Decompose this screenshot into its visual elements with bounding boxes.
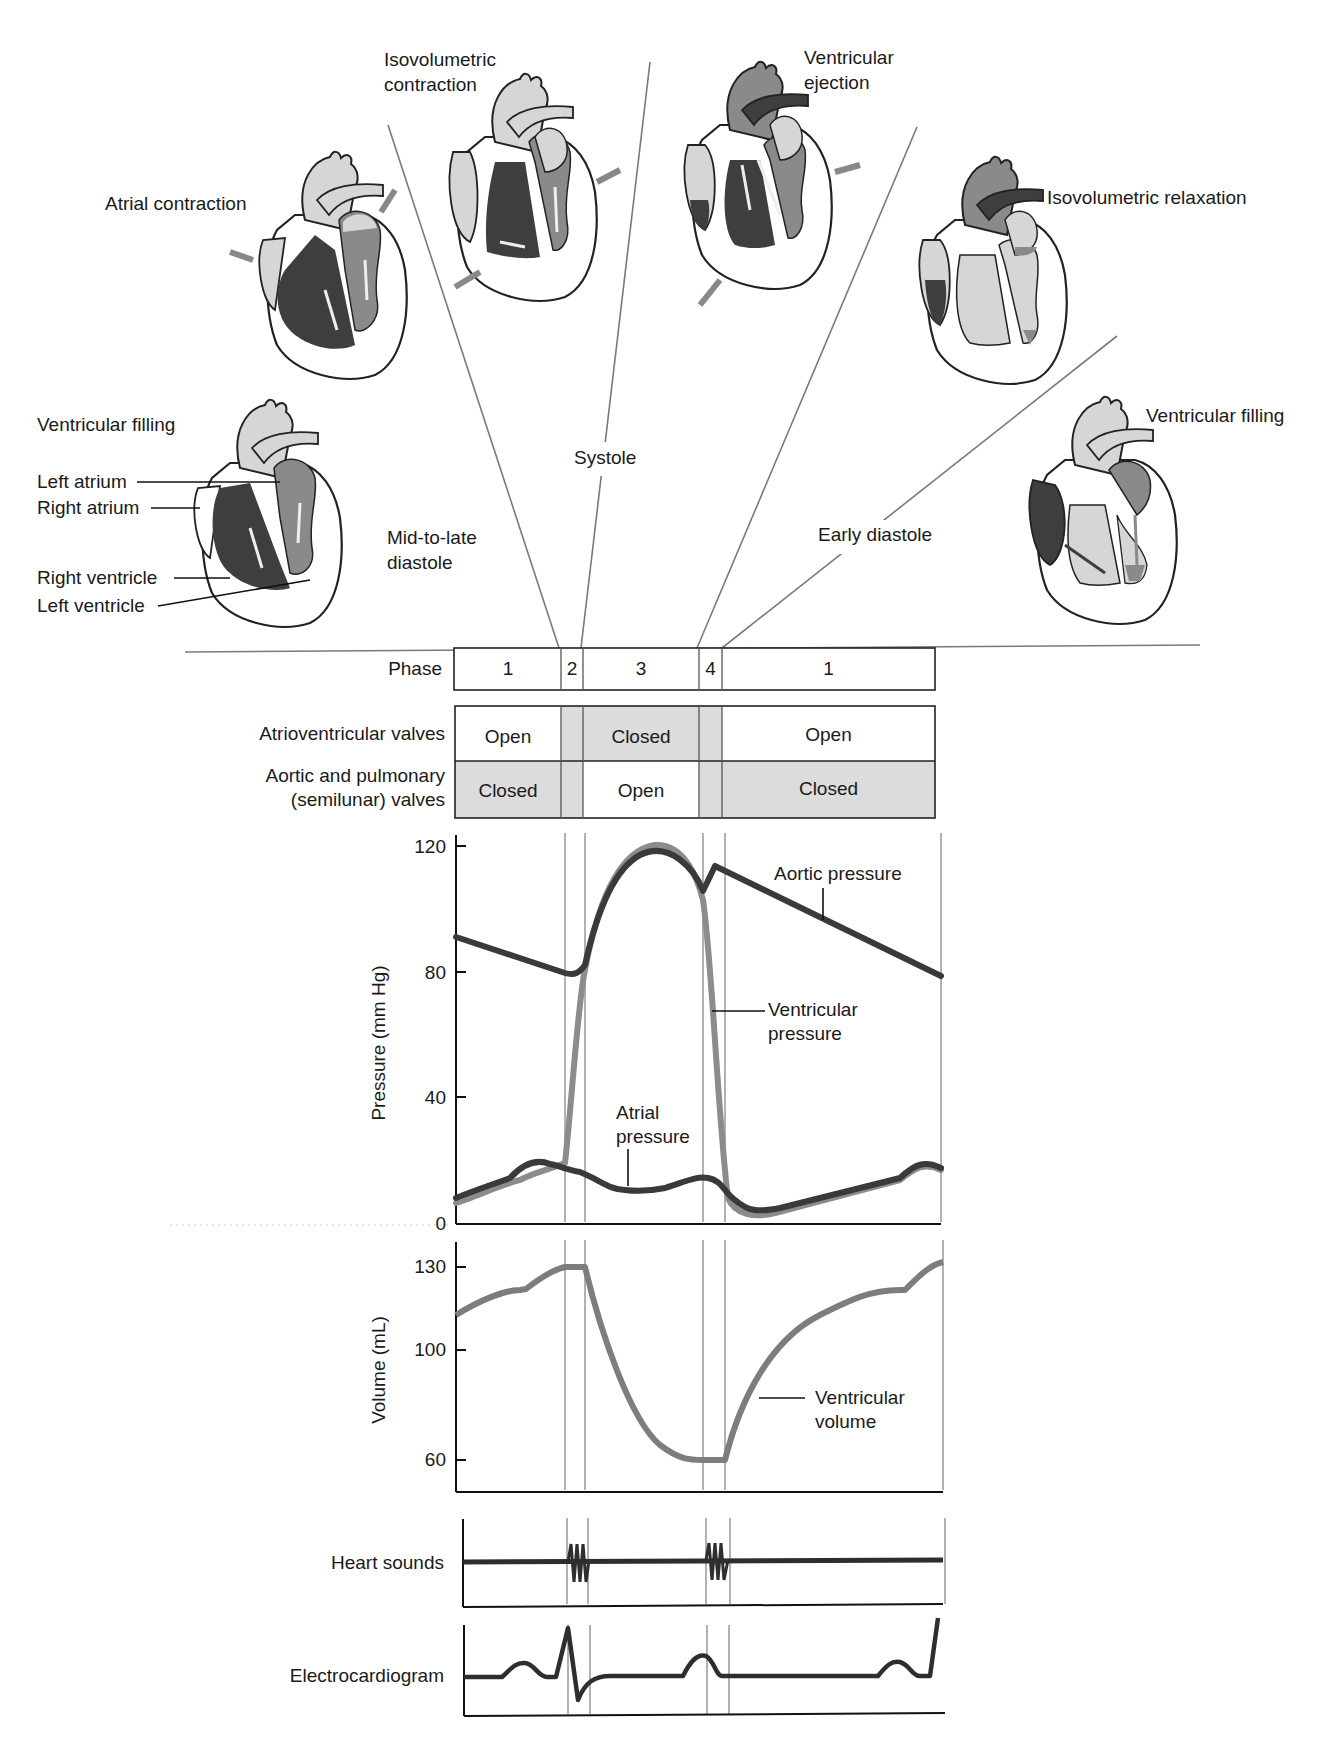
tick-100: 100	[400, 1338, 446, 1362]
pressure-axis-label: Pressure (mm Hg)	[367, 953, 391, 1133]
tick-130: 130	[400, 1255, 446, 1279]
ventricular-volume-label-2: volume	[815, 1410, 876, 1434]
ventricular-pressure-label-1: Ventricular	[768, 998, 858, 1022]
electrocardiogram-label: Electrocardiogram	[230, 1664, 444, 1688]
ventricular-volume-label-1: Ventricular	[815, 1386, 905, 1410]
atrial-pressure-label-1: Atrial	[616, 1101, 659, 1125]
heart-sounds-trace	[463, 1543, 943, 1582]
phase-boundary-lines	[565, 833, 945, 1714]
pressure-curves	[456, 845, 941, 1215]
wiggers-charts	[0, 0, 1337, 1737]
volume-axis-label: Volume (mL)	[367, 1305, 391, 1435]
ventricular-pressure-label-2: pressure	[768, 1022, 842, 1046]
tick-40: 40	[400, 1086, 446, 1110]
heart-sounds-label: Heart sounds	[250, 1551, 444, 1575]
ventricular-pressure-line	[456, 845, 941, 1215]
tick-120: 120	[400, 835, 446, 859]
ecg-trace	[464, 1618, 938, 1700]
tick-80: 80	[400, 961, 446, 985]
tick-60: 60	[400, 1448, 446, 1472]
atrial-pressure-line	[456, 1162, 941, 1211]
volume-axes	[456, 1242, 943, 1492]
tick-0: 0	[400, 1212, 446, 1236]
aortic-pressure-label: Aortic pressure	[774, 862, 902, 886]
atrial-pressure-label-2: pressure	[616, 1125, 690, 1149]
